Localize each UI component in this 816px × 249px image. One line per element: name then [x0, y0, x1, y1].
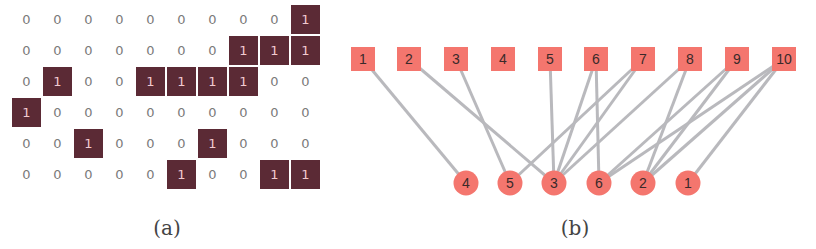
circle-node: 3	[542, 171, 567, 196]
square-node: 3	[444, 47, 468, 71]
caption-b: (b)	[561, 216, 589, 240]
graph-edge	[599, 59, 784, 183]
svg-text:5: 5	[546, 51, 554, 67]
svg-text:4: 4	[462, 175, 470, 191]
graph-edge	[643, 59, 784, 183]
square-node: 2	[397, 47, 421, 71]
graph-edge	[596, 59, 599, 183]
square-node: 6	[584, 47, 608, 71]
circle-node: 2	[631, 171, 656, 196]
svg-text:3: 3	[452, 51, 460, 67]
svg-text:9: 9	[733, 51, 741, 67]
circle-node: 6	[587, 171, 612, 196]
svg-text:3: 3	[550, 175, 558, 191]
svg-text:4: 4	[499, 51, 507, 67]
square-node: 5	[538, 47, 562, 71]
graph-edges	[363, 59, 784, 183]
square-node: 1	[351, 47, 375, 71]
square-node: 9	[725, 47, 749, 71]
svg-text:8: 8	[686, 51, 694, 67]
circle-node: 5	[498, 171, 523, 196]
square-node: 8	[678, 47, 702, 71]
svg-text:6: 6	[595, 175, 603, 191]
circle-node: 1	[676, 171, 701, 196]
svg-text:1: 1	[359, 51, 367, 67]
square-node: 10	[772, 47, 796, 71]
svg-text:7: 7	[639, 51, 647, 67]
svg-text:2: 2	[639, 175, 647, 191]
circle-node: 4	[454, 171, 479, 196]
graph-edge	[688, 59, 784, 183]
graph-edge	[550, 59, 554, 183]
svg-text:6: 6	[592, 51, 600, 67]
svg-text:1: 1	[684, 175, 692, 191]
circle-nodes: 453621	[454, 171, 701, 196]
svg-text:10: 10	[776, 51, 792, 67]
bipartite-graph: 12345678910 453621	[0, 0, 816, 249]
svg-text:5: 5	[506, 175, 514, 191]
graph-edge	[456, 59, 510, 183]
svg-text:2: 2	[405, 51, 413, 67]
square-node: 4	[491, 47, 515, 71]
graph-edge	[363, 59, 466, 183]
square-node: 7	[631, 47, 655, 71]
square-nodes: 12345678910	[351, 47, 796, 71]
